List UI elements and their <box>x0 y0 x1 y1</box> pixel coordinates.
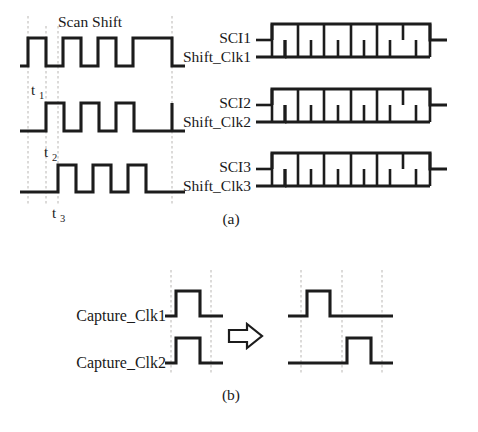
waveform-capture-clk1-before <box>165 291 223 316</box>
shift-clk3-start <box>256 169 285 186</box>
panel-b: Capture_Clk1 Capture_Clk2 (b) <box>76 270 393 404</box>
waveform-capture-clk2-after <box>288 338 393 363</box>
time-marker-t2: t 2 <box>44 144 57 163</box>
timing-diagram-svg: Scan Shift t 1 t 2 t 3 SCI1 Shift_Clk1 <box>0 0 478 432</box>
shift-clk3-label: Shift_Clk3 <box>183 177 251 194</box>
capture-clk1-label: Capture_Clk1 <box>76 307 166 325</box>
sci1-signal-label: SCI1 <box>219 29 251 46</box>
shift-clk2-start <box>256 105 285 122</box>
panel-b-caption: (b) <box>222 386 240 404</box>
waveform-capture-clk2-before <box>165 338 223 363</box>
waveform-capture-clk1-after <box>288 291 393 316</box>
shift-clk1-start <box>256 40 285 57</box>
waveform-shift-clk-2 <box>20 103 185 131</box>
time-marker-t3: t 3 <box>52 205 65 224</box>
waveform-shift-clk-1 <box>20 38 185 66</box>
sci3-burst <box>256 153 447 186</box>
shift-clk2-label: Shift_Clk2 <box>183 113 251 130</box>
sci3-signal-label: SCI3 <box>219 158 251 175</box>
panel-a-caption: (a) <box>222 210 239 228</box>
shift-clk1-label: Shift_Clk1 <box>183 48 251 65</box>
time-marker-t1: t 1 <box>31 82 44 101</box>
figure-root: Scan Shift t 1 t 2 t 3 SCI1 Shift_Clk1 <box>0 0 478 432</box>
time-marker-t3-subscript: 3 <box>60 213 65 224</box>
waveform-shift-clk-3 <box>20 165 185 192</box>
time-marker-t2-label: t <box>44 144 49 160</box>
sci-group-3: SCI3 Shift_Clk3 <box>183 153 447 194</box>
time-marker-t1-subscript: 1 <box>39 90 44 101</box>
right-arrow-icon <box>229 324 262 348</box>
sci1-burst <box>256 24 447 57</box>
sci-group-1: SCI1 Shift_Clk1 <box>183 24 447 65</box>
scan-shift-annotation: Scan Shift <box>58 13 123 30</box>
time-marker-t3-label: t <box>52 205 57 221</box>
time-marker-t1-label: t <box>31 82 36 98</box>
sci2-burst <box>256 89 447 122</box>
capture-clk2-label: Capture_Clk2 <box>76 354 166 372</box>
sci2-signal-label: SCI2 <box>219 94 251 111</box>
time-marker-t2-subscript: 2 <box>52 152 57 163</box>
sci-group-2: SCI2 Shift_Clk2 <box>183 89 447 130</box>
